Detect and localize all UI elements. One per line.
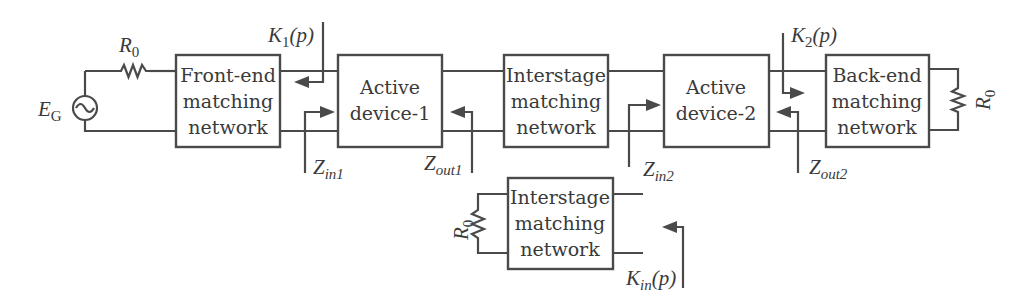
- front-end-matching-network: Front-end matching network: [176, 55, 280, 147]
- signal-source: EG: [37, 71, 176, 131]
- source-resistor: R0: [118, 33, 176, 77]
- kin-port-arrow: Kin(p): [625, 221, 683, 293]
- zout2-label: Zout2: [809, 155, 848, 182]
- resistor-icon: [952, 86, 964, 114]
- svg-text:Back-end: Back-end: [832, 64, 921, 86]
- zin2-label: Zin2: [643, 157, 674, 184]
- active-device-1: Active device-1: [338, 55, 442, 147]
- load-resistor-label: R0: [971, 90, 998, 111]
- zout1-label: Zout1: [424, 151, 462, 178]
- k2-label: K2(p): [790, 23, 837, 50]
- resistor-icon: [118, 65, 150, 77]
- arrow-right-icon: [790, 87, 805, 99]
- arrow-right-icon: [320, 106, 335, 118]
- svg-text:network: network: [188, 116, 268, 138]
- active-device-2: Active device-2: [664, 55, 769, 147]
- svg-text:network: network: [520, 238, 600, 260]
- back-end-matching-network: Back-end matching network: [826, 55, 929, 147]
- arrow-left-icon: [662, 221, 677, 233]
- svg-text:Interstage: Interstage: [506, 64, 606, 86]
- svg-text:device-2: device-2: [676, 102, 757, 124]
- svg-text:Active: Active: [359, 76, 420, 98]
- kin-label: Kin(p): [625, 266, 676, 293]
- interstage-test-network: R0 Interstage matching network: [449, 178, 643, 269]
- amplifier-block-diagram: EG R0 Front-end matching network Active …: [0, 0, 1036, 307]
- svg-text:Active: Active: [685, 76, 746, 98]
- interstage-matching-network: Interstage matching network: [504, 55, 608, 147]
- svg-text:matching: matching: [511, 90, 601, 112]
- svg-text:Front-end: Front-end: [180, 64, 276, 86]
- source-label: EG: [37, 97, 62, 124]
- svg-text:network: network: [837, 116, 917, 138]
- svg-text:device-1: device-1: [350, 102, 431, 124]
- svg-text:network: network: [516, 116, 596, 138]
- k1-label: K1(p): [267, 23, 314, 50]
- arrow-right-icon: [646, 99, 661, 111]
- zin1-label: Zin1: [313, 155, 344, 182]
- arrow-left-icon: [776, 106, 791, 118]
- aux-resistor-label: R0: [449, 220, 476, 241]
- svg-text:Interstage: Interstage: [510, 186, 610, 208]
- arrow-left-icon: [450, 106, 465, 118]
- svg-text:matching: matching: [515, 212, 605, 234]
- svg-text:matching: matching: [183, 90, 273, 112]
- svg-text:matching: matching: [832, 90, 922, 112]
- load-resistor: R0: [952, 86, 998, 114]
- arrow-left-icon: [294, 76, 309, 88]
- source-resistor-label: R0: [118, 33, 139, 60]
